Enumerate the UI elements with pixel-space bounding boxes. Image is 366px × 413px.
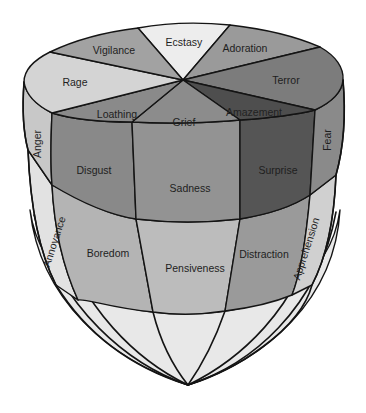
label-loathing: Loathing bbox=[97, 108, 137, 120]
label-boredom: Boredom bbox=[87, 247, 130, 259]
label-fear: Fear bbox=[321, 129, 333, 151]
label-distraction: Distraction bbox=[239, 248, 289, 260]
label-sadness: Sadness bbox=[170, 182, 211, 194]
label-pensiveness: Pensiveness bbox=[165, 262, 225, 274]
label-surprise: Surprise bbox=[258, 164, 297, 176]
segment-sadness bbox=[132, 120, 240, 222]
label-anger: Anger bbox=[31, 129, 43, 158]
label-rage: Rage bbox=[62, 76, 87, 88]
label-amazement: Amazement bbox=[226, 106, 282, 118]
label-vigilance: Vigilance bbox=[93, 44, 136, 56]
label-terror: Terror bbox=[272, 74, 300, 86]
label-disgust: Disgust bbox=[76, 164, 111, 176]
emotion-solid-diagram: Ecstasy Adoration Terror Amazement Grief… bbox=[0, 0, 366, 413]
label-adoration: Adoration bbox=[223, 42, 268, 54]
label-ecstasy: Ecstasy bbox=[166, 36, 204, 48]
label-grief: Grief bbox=[173, 116, 196, 128]
